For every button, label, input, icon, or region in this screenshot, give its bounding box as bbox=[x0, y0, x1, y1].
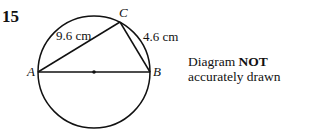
label-c: C bbox=[119, 5, 128, 21]
diagram-note: Diagram NOT accurately drawn bbox=[188, 54, 281, 84]
length-ac: 9.6 cm bbox=[56, 28, 91, 44]
label-b: B bbox=[153, 64, 161, 80]
length-bc: 4.6 cm bbox=[143, 29, 178, 45]
center-point bbox=[92, 70, 96, 74]
label-a: A bbox=[27, 64, 35, 80]
